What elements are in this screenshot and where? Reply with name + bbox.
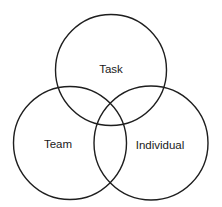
task-label: Task bbox=[99, 63, 123, 75]
team-label: Team bbox=[44, 138, 72, 150]
venn-diagram: Task Team Individual bbox=[0, 0, 222, 207]
individual-label: Individual bbox=[136, 139, 185, 151]
